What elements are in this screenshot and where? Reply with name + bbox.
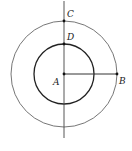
point-d xyxy=(63,43,66,46)
label-c: C xyxy=(67,9,74,19)
label-a: A xyxy=(52,77,60,87)
point-a xyxy=(63,73,66,76)
point-b xyxy=(116,73,119,76)
label-d: D xyxy=(66,32,74,42)
point-c xyxy=(63,20,66,23)
geometry-diagram: ABCD xyxy=(0,0,132,151)
label-b: B xyxy=(118,76,126,86)
